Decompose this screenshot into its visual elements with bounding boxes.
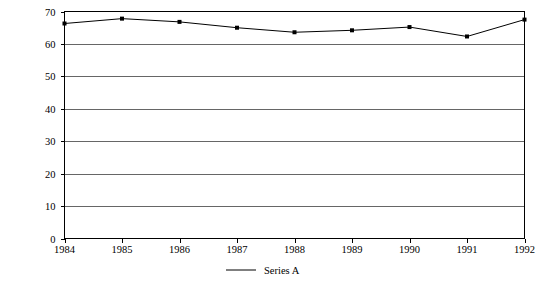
data-point-marker [63, 21, 67, 25]
chart-legend: Series A [226, 265, 300, 276]
legend-label-series-a: Series A [264, 265, 300, 276]
x-axis-tick-label: 1988 [284, 244, 305, 255]
y-axis-tick-label: 30 [45, 136, 56, 147]
y-axis-tick-labels: 010203040506070 [45, 7, 65, 245]
data-point-marker [350, 28, 354, 32]
y-axis-tick-label: 70 [45, 7, 56, 18]
x-axis-tick-label: 1987 [227, 244, 248, 255]
x-axis-tick-label: 1986 [169, 244, 190, 255]
y-axis-tick-label: 20 [45, 169, 56, 180]
x-axis-tick-label: 1985 [112, 244, 133, 255]
x-axis-tick-marks [66, 239, 526, 243]
y-axis-tick-label: 60 [45, 39, 56, 50]
data-point-marker [120, 17, 124, 21]
x-axis-tick-label: 1984 [54, 244, 76, 255]
x-axis-tick-label: 1990 [399, 244, 420, 255]
data-point-marker [178, 20, 182, 24]
plot-gridlines [65, 45, 525, 207]
data-point-marker [523, 18, 527, 22]
data-point-marker [408, 25, 412, 29]
y-axis-tick-label: 10 [45, 201, 56, 212]
y-axis-tick-label: 50 [45, 71, 56, 82]
x-axis-tick-labels: 198419851986198719881989199019911992 [54, 244, 535, 255]
data-point-marker [235, 26, 239, 30]
x-axis-tick-label: 1991 [457, 244, 478, 255]
line-chart: 010203040506070 198419851986198719881989… [0, 0, 541, 282]
x-axis-tick-label: 1989 [342, 244, 363, 255]
y-axis-tick-label: 40 [45, 104, 56, 115]
x-axis-tick-label: 1992 [514, 244, 535, 255]
chart-canvas: 010203040506070 198419851986198719881989… [0, 0, 541, 282]
data-point-marker [465, 34, 469, 38]
plot-frame [65, 11, 526, 239]
data-point-marker [293, 30, 297, 34]
